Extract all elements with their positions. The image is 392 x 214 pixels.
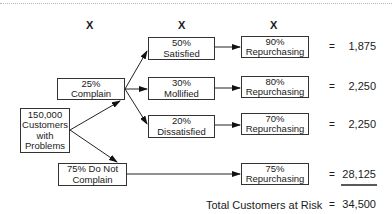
result-value: 1,875 [326,40,376,52]
dissatisfied-box: 20% Dissatisfied [148,115,215,138]
box-line: 30% [172,78,191,89]
box-line: Satisfied [163,49,199,60]
result-value: 28,125 [326,168,376,180]
result-value: 2,250 [326,80,376,92]
result-value: 2,250 [326,118,376,130]
complain-box: 25% Complain [57,78,125,100]
box-line: Repurchasing [246,174,305,185]
mollified-box: 30% Mollified [148,77,215,100]
root-box-customers-with-problems: 150,000 Customers with Problems [20,108,70,153]
multiplier-x-2: X [178,19,185,31]
multiplier-x-1: X [86,19,93,31]
repurchasing-box-70: 70% Repurchasing [241,113,309,135]
box-line: 75% Do Not [67,164,118,175]
repurchasing-box-75: 75% Repurchasing [241,163,309,185]
total-value: 34,500 [326,198,376,210]
box-line: Repurchasing [246,87,305,98]
box-line: 50% [172,38,191,49]
box-line: 20% [172,116,191,127]
do-not-complain-box: 75% Do Not Complain [58,163,127,186]
box-line: Complain [72,175,112,186]
box-line: Mollified [164,89,199,100]
root-line: Problems [25,141,65,152]
repurchasing-box-90: 90% Repurchasing [241,36,309,58]
satisfied-box: 50% Satisfied [148,37,215,60]
box-line: Repurchasing [246,47,305,58]
repurchasing-box-80: 80% Repurchasing [241,76,309,98]
total-label: Total Customers at Risk [206,199,322,211]
box-line: Repurchasing [246,124,305,135]
box-line: Complain [71,89,111,100]
box-line: Dissatisfied [157,127,206,138]
multiplier-x-3: X [270,19,277,31]
root-line: Customers [22,120,68,131]
